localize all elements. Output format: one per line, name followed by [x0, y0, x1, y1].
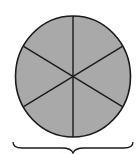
curly-brace	[13, 142, 133, 153]
fraction-circle-diagram	[0, 0, 138, 154]
diagram-svg	[0, 0, 138, 154]
